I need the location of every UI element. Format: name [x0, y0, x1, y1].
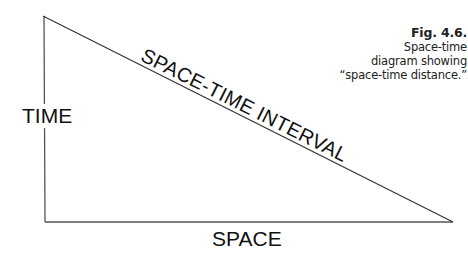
space-axis-label: SPACE: [212, 228, 282, 250]
figure-number: Fig. 4.6.: [267, 26, 467, 40]
time-axis-label: TIME: [21, 104, 73, 128]
caption-line: Space-time: [267, 40, 467, 54]
caption-line: “space-time distance.”: [267, 68, 467, 82]
figure-caption: Fig. 4.6. Space-time diagram showing “sp…: [267, 26, 467, 82]
caption-line: diagram showing: [267, 54, 467, 68]
